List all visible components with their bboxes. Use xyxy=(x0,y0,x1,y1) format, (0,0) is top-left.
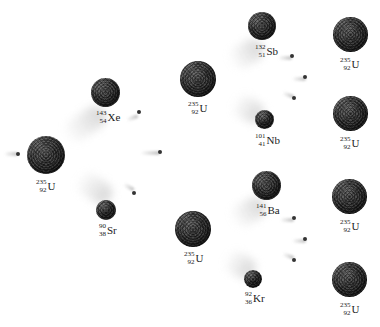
nucleus-kr92 xyxy=(244,270,262,288)
nucleus-sb132 xyxy=(248,12,276,40)
nucleus-u235-mid-bot xyxy=(175,211,211,247)
label-u235-mid-bot: 23592 U xyxy=(184,251,203,266)
nucleus-nb101 xyxy=(255,110,274,129)
neutron xyxy=(292,216,296,220)
neutron-trail xyxy=(140,151,160,155)
neutron-trail xyxy=(126,114,139,122)
label-ba141: 14156 Ba xyxy=(256,203,280,218)
label-u235-mid-top: 23592 U xyxy=(188,101,207,116)
nucleus-u235-right-3 xyxy=(332,179,367,214)
neutron xyxy=(290,54,294,58)
neutron xyxy=(303,75,307,79)
label-u235-right-2: 23592 U xyxy=(340,136,359,151)
nucleus-ba141 xyxy=(252,171,281,200)
label-sr90: 9038 Sr xyxy=(99,223,117,238)
nucleus-u235-mid-top xyxy=(180,61,216,97)
neutron xyxy=(132,191,136,195)
neutron xyxy=(292,96,296,100)
label-kr92: 9236 Kr xyxy=(245,291,265,306)
label-u235-initial: 23592 U xyxy=(36,179,55,194)
fission-chain-diagram: 23592 U 14354 Xe 9038 Sr 23592 U 23592 U… xyxy=(0,0,380,327)
neutron xyxy=(158,150,162,154)
label-nb101: 10141 Nb xyxy=(255,133,280,148)
label-sb132: 13251 Sb xyxy=(255,44,278,59)
neutron-incoming xyxy=(16,152,20,156)
label-xe143: 14354 Xe xyxy=(96,110,120,125)
nucleus-u235-right-2 xyxy=(333,96,368,131)
nucleus-u235-initial xyxy=(27,136,65,174)
label-u235-right-3: 23592 U xyxy=(340,219,359,234)
neutron xyxy=(137,110,141,114)
label-u235-right-1: 23592 U xyxy=(340,57,359,72)
nucleus-u235-right-4 xyxy=(332,262,367,297)
nucleus-u235-right-1 xyxy=(333,17,368,52)
nucleus-xe143 xyxy=(91,78,120,107)
neutron xyxy=(292,258,296,262)
neutron xyxy=(303,237,307,241)
label-u235-right-4: 23592 U xyxy=(340,302,359,317)
nucleus-sr90 xyxy=(96,200,116,220)
